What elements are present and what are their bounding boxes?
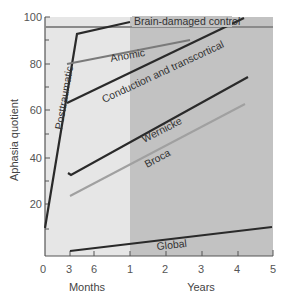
x-tick-1-year: 1 xyxy=(127,263,133,275)
y-tick-100: 100 xyxy=(24,11,42,23)
y-axis-title: Aphasia quotient xyxy=(8,99,20,181)
series-control-label: Brain-damaged control xyxy=(134,15,240,27)
x-tick-5-years: 5 xyxy=(270,263,276,275)
x-tick-3-months: 3 xyxy=(66,263,72,275)
y-tick-80: 80 xyxy=(30,58,42,70)
x-tick-3-years: 3 xyxy=(198,263,204,275)
x-tick-4-years: 4 xyxy=(234,263,240,275)
x-tick-6-months: 6 xyxy=(91,263,97,275)
y-tick-20: 20 xyxy=(30,198,42,210)
x-axis-title-months: Months xyxy=(69,281,106,293)
aphasia-recovery-chart: 100 80 60 40 20 0 3 6 1 2 3 4 5 Months Y… xyxy=(0,0,290,307)
x-tick-0: 0 xyxy=(40,263,46,275)
x-tick-2-years: 2 xyxy=(162,263,168,275)
y-tick-40: 40 xyxy=(30,152,42,164)
x-axis-title-years: Years xyxy=(187,281,215,293)
y-tick-60: 60 xyxy=(30,104,42,116)
